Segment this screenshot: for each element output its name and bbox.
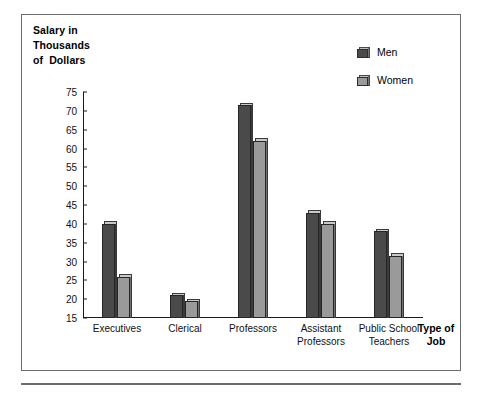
plot-area: 75706560555045403530252015 ExecutivesCle…: [83, 92, 423, 318]
x-axis-title: Type of Job: [408, 322, 464, 348]
chart-legend: Men Women: [357, 42, 413, 98]
y-axis-title-line-3: of Dollars: [33, 53, 90, 68]
bar-group: [83, 92, 151, 318]
bar-men: [170, 295, 183, 318]
bar-group: [355, 92, 423, 318]
y-axis-title-line-2: Thousands: [33, 38, 90, 53]
y-tick-label: 65: [51, 124, 77, 135]
legend-item-women: Women: [357, 70, 413, 90]
bar-group: [219, 92, 287, 318]
legend-swatch-men-icon: [357, 47, 370, 58]
chart-figure: Salary in Thousands of Dollars Men Women…: [0, 0, 484, 393]
bar-men: [238, 105, 251, 318]
bar-women: [185, 301, 198, 318]
y-axis-title-line-1: Salary in: [33, 23, 90, 38]
bar-women: [321, 224, 334, 318]
y-tick-label: 40: [51, 218, 77, 229]
y-tick-label: 25: [51, 275, 77, 286]
x-axis-title-line-1: Type of: [408, 322, 464, 335]
legend-swatch-women-icon: [357, 75, 370, 86]
bar-men: [306, 213, 319, 318]
legend-label-men: Men: [377, 46, 397, 58]
y-tick-label: 50: [51, 181, 77, 192]
y-tick-label: 75: [51, 87, 77, 98]
y-tick-label: 30: [51, 256, 77, 267]
bar-men: [374, 231, 387, 318]
bar-women: [389, 256, 402, 318]
y-tick-label: 20: [51, 294, 77, 305]
y-axis-title: Salary in Thousands of Dollars: [33, 23, 90, 68]
bottom-separator-rule: [21, 383, 461, 385]
legend-label-women: Women: [377, 74, 413, 86]
bar-men: [102, 224, 115, 318]
y-tick-label: 60: [51, 143, 77, 154]
legend-item-men: Men: [357, 42, 413, 62]
bar-groups: [83, 92, 423, 318]
y-tick-label: 55: [51, 162, 77, 173]
y-tick-label: 45: [51, 200, 77, 211]
y-tick-label: 70: [51, 105, 77, 116]
bar-women: [253, 141, 266, 318]
y-tick-label: 35: [51, 237, 77, 248]
bar-group: [151, 92, 219, 318]
x-axis-title-line-2: Job: [408, 335, 464, 348]
bar-women: [117, 277, 130, 318]
bar-group: [287, 92, 355, 318]
